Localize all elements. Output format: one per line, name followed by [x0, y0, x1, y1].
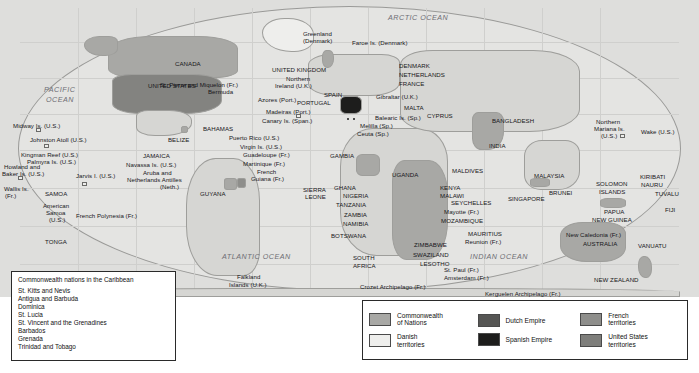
- caribbean-legend-title: Commonwealth nations in the Caribbean: [18, 276, 169, 283]
- map-label: Balearic Is. (Sp.): [375, 114, 421, 121]
- map-label: BANGLADESH: [492, 117, 534, 124]
- legend-entry-french-territories: French territories: [580, 312, 681, 327]
- legend-entry-commonwealth-of-nations: Commonwealth of Nations: [369, 312, 478, 327]
- landmass-malaysia: [530, 178, 550, 187]
- legend-swatch-united-states-territories: [580, 334, 602, 347]
- legend-label-danish-territories: Danish territories: [397, 333, 424, 348]
- gridline-lat: [20, 114, 679, 115]
- ocean-label: INDIAN OCEAN: [470, 253, 528, 260]
- legend-entry-danish-territories: Danish territories: [369, 333, 478, 348]
- caribbean-legend-item: St. Lucia: [18, 311, 169, 319]
- ocean-label: PACIFIC: [44, 86, 75, 93]
- map-label: UNITED KINGDOM: [272, 66, 326, 73]
- map-label: SEYCHELLES: [451, 199, 491, 206]
- caribbean-legend-list: St. Kitts and NevisAntigua and BarbudaDo…: [18, 287, 169, 352]
- world-map: Greenland(Denmark)Faroe Is. (Denmark)CAN…: [0, 0, 699, 297]
- legend-label-united-states-territories: United States territories: [608, 333, 648, 348]
- legend-swatch-danish-territories: [369, 334, 391, 347]
- map-label: Faroe Is. (Denmark): [352, 39, 407, 46]
- landmass-papua-new-guinea: [600, 198, 626, 208]
- caribbean-legend-item: St. Vincent and the Grenadines: [18, 319, 169, 327]
- map-label: (U.S.): [49, 216, 65, 223]
- map-label: Wake (U.S.): [641, 128, 675, 135]
- gridline-lon: [78, 8, 79, 289]
- map-label: GHANA: [334, 184, 356, 191]
- gridline-lat: [20, 264, 679, 265]
- map-label: ISLANDS: [599, 188, 625, 195]
- landmass-united-states: [112, 74, 222, 114]
- map-label: NIGERIA: [343, 192, 368, 199]
- legend-column-2: Dutch EmpireSpanish Empire: [478, 314, 581, 346]
- map-label: INDIA: [489, 142, 506, 149]
- map-label: LEONE: [305, 193, 326, 200]
- map-label: NAURU: [641, 181, 663, 188]
- map-label: Martinique (Fr.): [243, 160, 285, 167]
- map-label: Jarvis I. (U.S.): [76, 172, 115, 179]
- island-marker: [620, 134, 625, 138]
- legend-swatch-commonwealth-of-nations: [369, 313, 391, 326]
- map-label: SWAZILAND: [413, 251, 449, 258]
- map-label: (U.S.): [601, 132, 617, 139]
- legend-label-commonwealth-of-nations: Commonwealth of Nations: [397, 312, 443, 327]
- map-label: MAURITIUS: [468, 230, 502, 237]
- map-label: Reunion (Fr.): [465, 238, 501, 245]
- map-label: French Polynesia (Fr.): [76, 212, 137, 219]
- map-label: Madeiras (Port.): [266, 108, 310, 115]
- legend-swatch-french-territories: [580, 313, 602, 326]
- map-label: BELIZE: [168, 136, 189, 143]
- landmass-guyana: [224, 178, 237, 190]
- map-label: MALTA: [404, 104, 424, 111]
- map-label: UGANDA: [392, 171, 418, 178]
- map-label: FIJI: [665, 206, 675, 213]
- map-legend: Commonwealth of NationsDanish territorie…: [362, 300, 688, 360]
- legend-label-spanish-empire: Spanish Empire: [506, 336, 553, 344]
- map-label: Canary Is. (Span.): [262, 117, 312, 124]
- legend-entry-united-states-territories: United States territories: [580, 333, 681, 348]
- landmass-alaska: [84, 36, 118, 56]
- map-label: (Fr.): [5, 192, 16, 199]
- map-label: Bermuda: [208, 88, 233, 95]
- map-label: VANUATU: [638, 242, 667, 249]
- legend-swatch-dutch-empire: [478, 314, 500, 327]
- map-label: Guiana (Fr.): [251, 175, 284, 182]
- map-label: Ireland (U.K.): [275, 82, 312, 89]
- map-label: MALAYSIA: [534, 172, 564, 179]
- landmass-spain: [340, 96, 362, 114]
- landmass-canada: [108, 36, 238, 78]
- legend-entry-dutch-empire: Dutch Empire: [478, 314, 581, 327]
- map-label: Mayotte (Fr.): [444, 208, 479, 215]
- map-label: (Denmark): [303, 37, 332, 44]
- map-label: Puerto Rico (U.S.): [229, 134, 279, 141]
- ocean-label: ATLANTIC OCEAN: [222, 253, 291, 260]
- map-label: Johnston Atoll (U.S.): [30, 136, 87, 143]
- caribbean-legend-item: Barbados: [18, 327, 169, 335]
- map-label: Crozet Archipelago (Fr.): [360, 283, 426, 290]
- map-label: PORTUGAL: [297, 99, 331, 106]
- map-label: Midway Is. (U.S.): [13, 122, 60, 129]
- caribbean-legend-item: Trinidad and Tobago: [18, 343, 169, 351]
- map-label: NAMIBIA: [343, 220, 368, 227]
- caribbean-commonwealth-legend: Commonwealth nations in the Caribbean St…: [11, 271, 176, 361]
- map-label: SOLOMON: [596, 180, 628, 187]
- landmass-french-guiana: [237, 178, 246, 188]
- map-label: CANADA: [175, 60, 201, 67]
- map-label: FRANCE: [399, 80, 424, 87]
- map-label: DENMARK: [399, 62, 430, 69]
- map-label: MOZAMBIQUE: [441, 217, 483, 224]
- ocean-label: ARCTIC OCEAN: [388, 14, 448, 21]
- map-label: Baker Is. (U.S.): [2, 170, 44, 177]
- map-label: Virgin Is. (U.S.): [240, 143, 282, 150]
- map-label: GAMBIA: [330, 152, 354, 159]
- legend-swatch-spanish-empire: [478, 333, 500, 346]
- map-label: AUSTRALIA: [583, 240, 617, 247]
- map-label: CYPRUS: [427, 112, 453, 119]
- map-label: TANZANIA: [336, 201, 366, 208]
- map-label: SAMOA: [45, 190, 67, 197]
- legend-entry-spanish-empire: Spanish Empire: [478, 333, 581, 346]
- map-label: Islands (U.K.): [229, 281, 267, 288]
- map-label: Azores (Port.): [258, 96, 296, 103]
- caribbean-legend-item: Dominica: [18, 303, 169, 311]
- legend-column-1: Commonwealth of NationsDanish territorie…: [369, 312, 478, 348]
- island-marker: [44, 144, 49, 148]
- map-label: SOUTH: [353, 254, 375, 261]
